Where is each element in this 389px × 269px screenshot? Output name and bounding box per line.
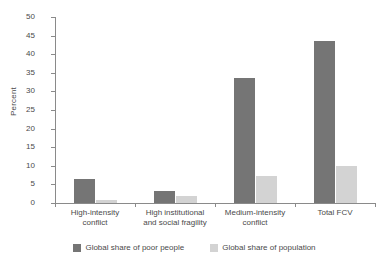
y-axis-tick (51, 129, 55, 130)
y-axis-tick (51, 54, 55, 55)
bar-poor-people (234, 78, 255, 203)
plot-area: 05101520253035404550 (55, 17, 375, 203)
x-axis-category-label-line: and social fragility (135, 218, 215, 228)
x-axis-category-label: Medium-intensityconflict (215, 208, 295, 228)
y-axis-tick-label: 15 (15, 143, 35, 151)
x-axis-category-label-line: High-intensity (55, 208, 135, 218)
x-axis-tick (295, 203, 296, 207)
legend-label: Global share of poor people (85, 243, 184, 252)
bar-poor-people (154, 191, 175, 203)
bar-chart: Percent 05101520253035404550 High-intens… (0, 0, 389, 269)
x-axis-category-label-line: Total FCV (295, 208, 375, 218)
bar-population (256, 176, 277, 203)
y-axis-tick (51, 184, 55, 185)
x-axis-tick (55, 203, 56, 207)
y-axis-tick-label: 40 (15, 50, 35, 58)
x-axis-tick (215, 203, 216, 207)
y-axis-tick-label: 25 (15, 106, 35, 114)
y-axis-tick-label: 10 (15, 162, 35, 170)
x-axis-category-label: High institutionaland social fragility (135, 208, 215, 228)
legend-label: Global share of population (222, 243, 315, 252)
legend-swatch-icon (73, 244, 81, 252)
bar-population (336, 166, 357, 203)
y-axis-tick-label: 5 (15, 180, 35, 188)
x-axis-category-label-line: conflict (55, 218, 135, 228)
y-axis-tick (51, 91, 55, 92)
x-axis-category-label-line: High institutional (135, 208, 215, 218)
y-axis-line (55, 17, 56, 203)
y-axis-tick (51, 166, 55, 167)
y-axis-tick (51, 147, 55, 148)
y-axis-title: Percent (6, 0, 20, 203)
x-axis-labels: High-intensityconflictHigh institutional… (55, 208, 375, 238)
y-axis-tick-label: 50 (15, 13, 35, 21)
x-axis-category-label-line: conflict (215, 218, 295, 228)
bar-poor-people (314, 41, 335, 203)
bar-population (96, 200, 117, 203)
x-axis-tick (375, 203, 376, 207)
y-axis-tick-label: 0 (15, 199, 35, 207)
x-axis-category-label-line: Medium-intensity (215, 208, 295, 218)
y-axis-tick (51, 36, 55, 37)
x-axis-category-label: High-intensityconflict (55, 208, 135, 228)
y-axis-tick-label: 20 (15, 125, 35, 133)
x-axis-category-label: Total FCV (295, 208, 375, 218)
chart-legend: Global share of poor peopleGlobal share … (0, 243, 389, 252)
x-axis-tick (135, 203, 136, 207)
y-axis-tick (51, 17, 55, 18)
y-axis-tick (51, 110, 55, 111)
y-axis-tick-label: 30 (15, 87, 35, 95)
y-axis-tick-label: 45 (15, 32, 35, 40)
legend-swatch-icon (210, 244, 218, 252)
bar-population (176, 196, 197, 203)
legend-item[interactable]: Global share of poor people (73, 243, 184, 252)
bar-poor-people (74, 179, 95, 203)
legend-item[interactable]: Global share of population (210, 243, 315, 252)
y-axis-tick (51, 73, 55, 74)
y-axis-tick-label: 35 (15, 69, 35, 77)
